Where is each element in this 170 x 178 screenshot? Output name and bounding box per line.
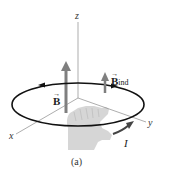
b-induced-arrow-icon [101, 72, 109, 93]
y-axis-label: y [148, 118, 152, 128]
faraday-lenz-diagram: z x y → B → B ind I (a) [0, 0, 170, 178]
current-label: I [124, 138, 128, 149]
x-axis-label: x [9, 131, 13, 141]
b-field-arrow-icon [61, 61, 71, 113]
figure-caption: (a) [71, 157, 82, 167]
right-hand-icon [67, 106, 112, 150]
b-induced-label: → B ind [111, 76, 129, 87]
diagram-canvas [0, 0, 170, 178]
current-direction-arrow-icon [113, 121, 134, 134]
z-axis-label: z [75, 11, 79, 21]
b-field-label: → B [53, 96, 60, 107]
